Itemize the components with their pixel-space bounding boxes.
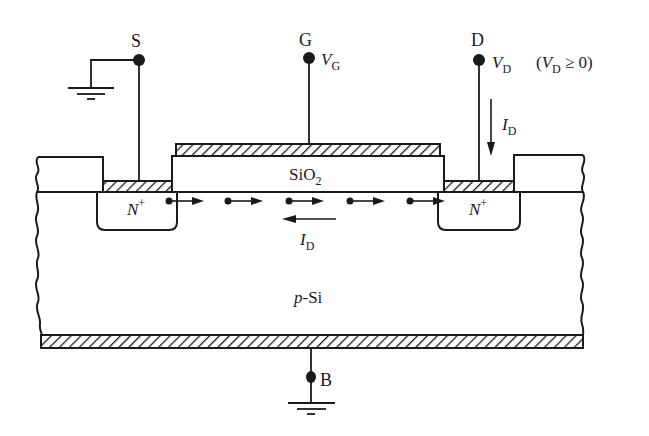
drain-label: D <box>471 30 484 50</box>
right-field-oxide <box>514 155 583 192</box>
electron-arrow <box>286 197 325 205</box>
gate-terminal <box>303 52 315 144</box>
source-label: S <box>131 31 141 51</box>
channel-current-label: ID <box>299 230 315 253</box>
substrate-right-edge <box>581 155 585 336</box>
source-terminal <box>68 54 145 181</box>
drain-current-label: ID <box>501 115 517 138</box>
gate-metal <box>176 144 440 156</box>
gate-label: G <box>299 30 312 50</box>
electron-arrow <box>347 197 386 205</box>
source-contact-metal <box>103 181 172 192</box>
drain-terminal-dot <box>473 54 485 66</box>
drain-voltage-condition: (VD ≥ 0) <box>536 53 593 76</box>
electron-arrow <box>166 197 205 205</box>
ground-icon <box>288 403 335 414</box>
body-contact-metal <box>41 335 583 348</box>
electron-arrow <box>407 197 446 205</box>
substrate-left-edge <box>36 157 42 336</box>
electron-flow <box>166 197 446 205</box>
drain-terminal <box>473 54 485 181</box>
body-label: B <box>320 370 332 390</box>
source-well-label: N+ <box>126 196 145 219</box>
drain-contact-metal <box>444 181 514 192</box>
ground-icon <box>68 88 114 99</box>
drain-voltage-label: VD <box>492 53 511 76</box>
gate-voltage-label: VG <box>321 50 340 73</box>
gate-terminal-dot <box>303 52 315 64</box>
drain-well-label: N+ <box>468 196 487 219</box>
drain-current-arrow <box>487 99 495 156</box>
left-field-oxide <box>38 157 103 192</box>
body-terminal-dot <box>306 371 316 383</box>
substrate-label: p-Si <box>293 288 323 307</box>
mosfet-diagram: SiO2 N+ N+ <box>0 0 649 436</box>
channel-current-arrow <box>282 215 336 223</box>
electron-arrow <box>225 197 264 205</box>
